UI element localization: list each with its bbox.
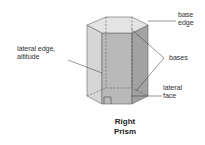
front-lateral-face [102,33,132,104]
label-base-edge: base edge [178,11,194,27]
label-lateral-edge: lateral edge, altitude [17,45,55,61]
left-lateral-face [87,25,102,104]
label-bases: bases [169,54,188,62]
label-lateral-face: lateral face [163,84,182,100]
figure-title: Right Prism [100,117,150,136]
